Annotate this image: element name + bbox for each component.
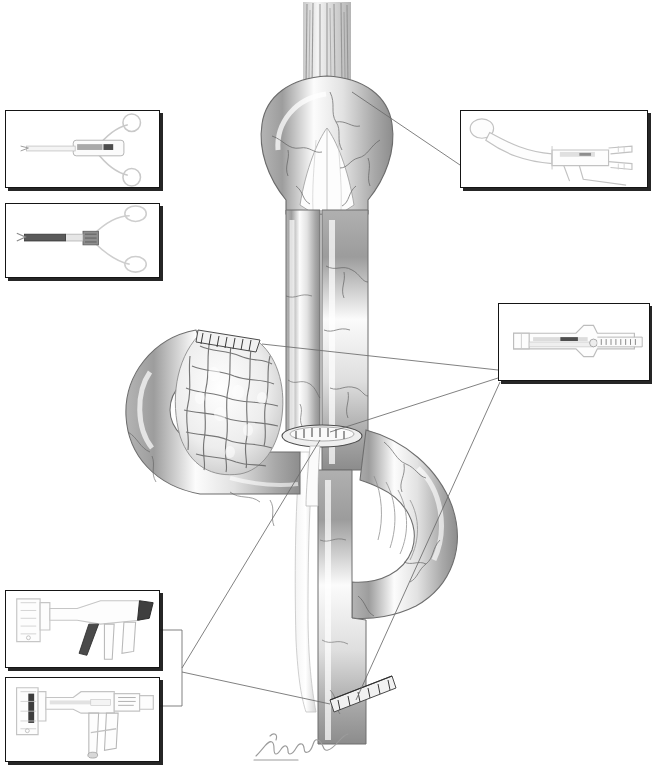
surgical-illustration-figure: [0, 0, 652, 769]
surgical-grasper-icon: [6, 204, 159, 277]
curved-stapler-icon: [461, 111, 647, 187]
inset-linear-stapler[interactable]: [498, 303, 650, 381]
inset-surgical-grasper[interactable]: [5, 203, 160, 278]
leader-bracket-stem-2: [182, 672, 330, 704]
leader-bracket-stem: [182, 440, 320, 668]
artist-signature: [252, 722, 372, 766]
stapler-gun-open-icon: [6, 591, 159, 667]
inset-stapler-gun-open[interactable]: [5, 590, 160, 668]
stapler-gun-closed-icon: [6, 678, 159, 761]
inset-curved-stapler[interactable]: [460, 110, 648, 188]
leader-linear-stapler-mid: [330, 378, 498, 432]
linear-stapler-icon: [499, 304, 649, 380]
signature-icon: [252, 722, 372, 766]
leader-stapler-guns-bracket: [160, 630, 182, 706]
leader-linear-stapler-lower: [356, 382, 500, 700]
inset-surgical-scissors[interactable]: [5, 110, 160, 188]
leader-linear-stapler-upper: [262, 344, 498, 370]
inset-stapler-gun-closed[interactable]: [5, 677, 160, 762]
leader-curved-stapler: [352, 92, 460, 165]
surgical-scissors-icon: [6, 111, 159, 187]
